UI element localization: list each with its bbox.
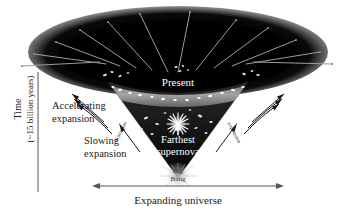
expanding-universe-label: Expanding universe xyxy=(0,194,356,206)
farthest-supernova-label: Farthest supernova xyxy=(0,134,356,158)
big-bang-label: Big Bang xyxy=(0,168,356,183)
supernova-starburst xyxy=(167,113,189,135)
farthest-supernova-line2: supernova xyxy=(0,146,356,158)
farthest-supernova-line1: Farthest xyxy=(0,134,356,146)
accelerating-expansion-line2: expansion xyxy=(52,113,106,126)
big-bang-line2: Bang xyxy=(0,176,356,184)
accelerating-expansion-line1: Accelerating xyxy=(52,100,106,113)
accelerating-arrows-right xyxy=(244,94,284,134)
accelerating-expansion-label: Accelerating expansion xyxy=(52,100,106,125)
diagram-canvas: Time (~15 billion years) Accelerating ex… xyxy=(0,0,356,214)
present-label: Present xyxy=(0,76,356,88)
